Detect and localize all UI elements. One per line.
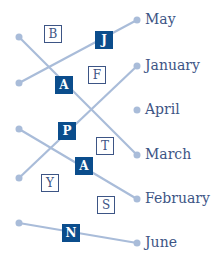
outline-letter-tile: B: [44, 25, 62, 43]
outline-letter-tile: T: [96, 137, 114, 155]
left-dot: [16, 34, 23, 41]
month-label-february: February: [145, 190, 210, 206]
tile-letter: F: [93, 69, 101, 81]
tile-letter: Y: [46, 177, 54, 189]
month-label-january: January: [145, 57, 200, 73]
outline-letter-tile: S: [97, 196, 115, 214]
tile-letter: S: [102, 199, 110, 211]
month-dot: [134, 17, 141, 24]
outline-letter-tile: F: [88, 66, 106, 84]
month-dot: [134, 107, 141, 114]
tile-letter: T: [101, 140, 109, 152]
tile-letter: A: [79, 160, 88, 172]
month-dot: [134, 63, 141, 70]
connector-line: [19, 20, 137, 83]
tile-letter: N: [66, 227, 77, 239]
month-label-march: March: [145, 146, 191, 162]
filled-letter-tile: A: [75, 157, 93, 175]
filled-letter-tile: P: [58, 122, 76, 140]
month-label-april: April: [145, 101, 180, 117]
left-dot: [16, 126, 23, 133]
tile-letter: A: [59, 79, 68, 91]
month-dot: [134, 240, 141, 247]
left-dot: [16, 80, 23, 87]
left-dot: [16, 220, 23, 227]
tile-letter: P: [62, 125, 71, 137]
filled-letter-tile: J: [95, 31, 113, 49]
month-label-may: May: [145, 11, 176, 27]
month-label-june: June: [145, 234, 177, 250]
filled-letter-tile: A: [55, 76, 73, 94]
left-dot: [16, 175, 23, 182]
month-dot: [134, 196, 141, 203]
month-dot: [134, 152, 141, 159]
outline-letter-tile: Y: [41, 174, 59, 192]
connector-line: [19, 37, 137, 155]
tile-letter: B: [49, 28, 58, 40]
tile-letter: J: [101, 34, 107, 46]
filled-letter-tile: N: [62, 224, 80, 242]
matching-diagram: MayJanuaryAprilMarchFebruaryJune JAPANBF…: [0, 0, 220, 255]
